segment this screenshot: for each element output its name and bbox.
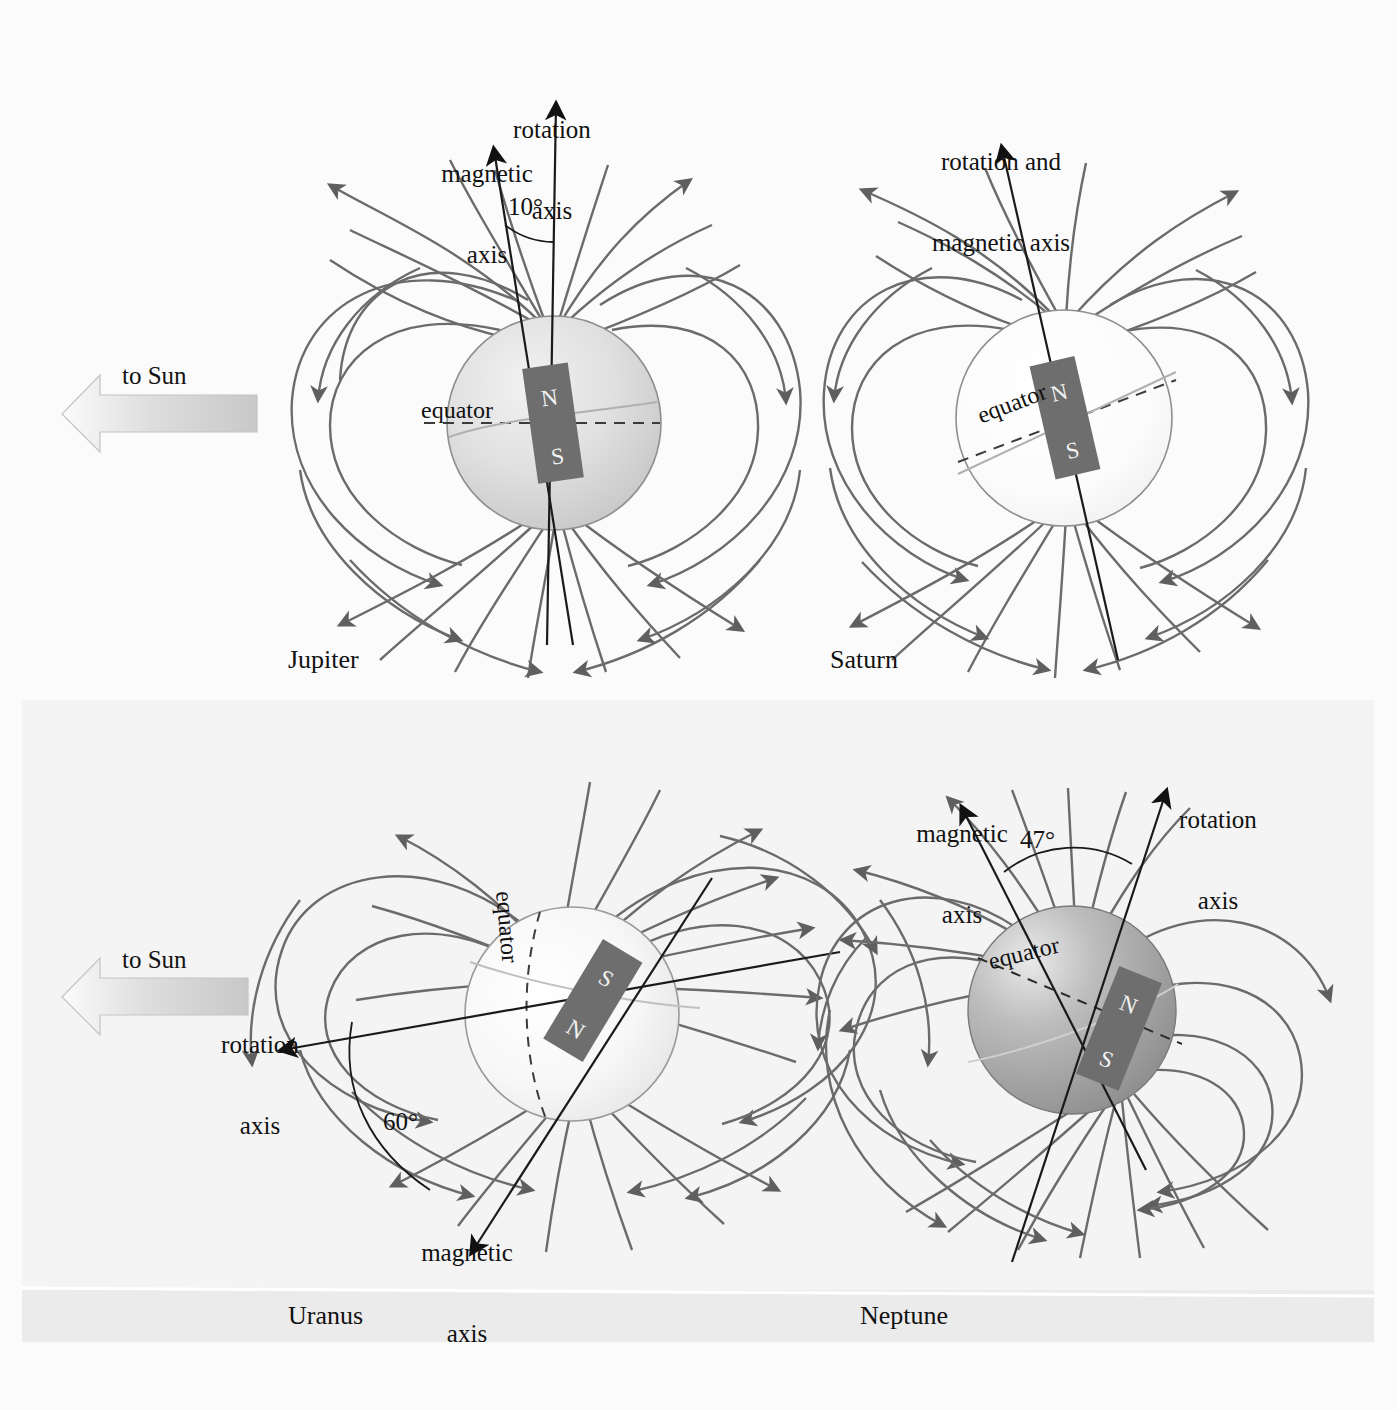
neptune-magnetic-axis-label-line2: axis <box>900 901 1024 928</box>
neptune-rotation-axis-label: rotation axis <box>1158 752 1278 968</box>
jupiter-magnetic-axis-label-line1: magnetic <box>425 160 549 187</box>
neptune-rotation-axis-label-line1: rotation <box>1158 806 1278 833</box>
saturn-axis-label: rotation and magnetic axis <box>898 94 1104 310</box>
saturn-axis-label-line2: magnetic axis <box>898 229 1104 256</box>
uranus-tilt-angle-label: 60° <box>383 1108 418 1135</box>
figure-canvas: N S <box>0 0 1397 1410</box>
neptune-rotation-axis-label-line2: axis <box>1158 887 1278 914</box>
caption-band <box>22 1290 1374 1342</box>
uranus-magnetic-axis-label-line2: axis <box>405 1320 529 1347</box>
jupiter-planet-name: Jupiter <box>288 646 359 674</box>
neptune-tilt-angle-label: 47° <box>1020 826 1055 853</box>
uranus-magnetic-axis-label: magnetic axis <box>405 1185 529 1401</box>
planetary-magnetic-field-diagram: N S <box>0 0 1397 1410</box>
neptune-planet-name: Neptune <box>860 1302 948 1330</box>
jupiter-tilt-angle-label: 10° <box>508 193 543 220</box>
neptune-magnetic-axis-label-line1: magnetic <box>900 820 1024 847</box>
uranus-rotation-axis-label-line2: axis <box>200 1112 320 1139</box>
uranus-rotation-axis-label-line1: rotation <box>200 1031 320 1058</box>
saturn-planet-name: Saturn <box>830 646 898 674</box>
uranus-planet-name: Uranus <box>288 1302 363 1330</box>
saturn-axis-label-line1: rotation and <box>898 148 1104 175</box>
uranus-magnetic-axis-label-line1: magnetic <box>405 1239 529 1266</box>
jupiter-equator-label: equator <box>421 398 493 424</box>
uranus-rotation-axis-label: rotation axis <box>200 977 320 1193</box>
to-sun-label-top: to Sun <box>122 362 187 389</box>
jupiter-magnetic-axis-label-line2: axis <box>425 241 549 268</box>
uranus-equator-label: equator <box>490 890 522 964</box>
to-sun-label-bottom: to Sun <box>122 946 187 973</box>
